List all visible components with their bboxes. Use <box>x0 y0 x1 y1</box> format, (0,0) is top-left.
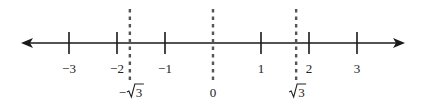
marker-label-zero: 0 <box>210 85 217 100</box>
tick-label: −2 <box>110 61 124 76</box>
tick-label: 3 <box>354 61 361 76</box>
dashed-markers <box>130 9 296 80</box>
tick-label: 2 <box>306 61 313 76</box>
minus-sign: − <box>119 85 126 100</box>
radicand: 3 <box>136 85 143 100</box>
number-line-diagram: −3−2−1123 −303 <box>0 0 425 110</box>
radicand: 3 <box>298 85 305 100</box>
tick-label: 1 <box>258 61 265 76</box>
marker-text: 0 <box>210 85 217 100</box>
tick-label: −3 <box>62 61 76 76</box>
tick-labels: −3−2−1123 <box>62 61 360 76</box>
marker-label-sqrt3: 3 <box>289 84 306 100</box>
marker-labels: −303 <box>119 84 306 100</box>
marker-label-neg-sqrt3: −3 <box>119 84 144 100</box>
tick-label: −1 <box>158 61 172 76</box>
